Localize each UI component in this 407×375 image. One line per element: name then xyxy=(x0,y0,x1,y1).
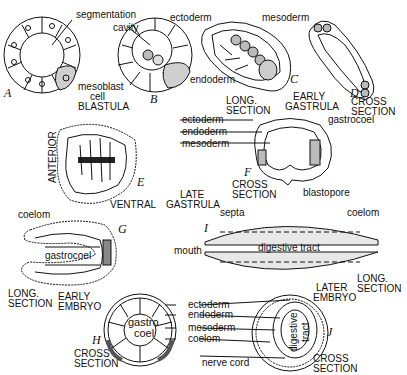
panel-letter-c: C xyxy=(290,72,298,87)
blastula-a-drawing xyxy=(4,17,80,93)
panel-letter-j: J xyxy=(327,325,332,340)
label-mouth: mouth xyxy=(174,246,202,256)
label-blastula: BLASTULA xyxy=(78,102,129,112)
label-cavity: cavity xyxy=(113,23,139,33)
label-ventral: VENTRAL xyxy=(110,200,156,210)
label-late-2: GASTRULA xyxy=(166,200,220,210)
label-blastopore: blastopore xyxy=(303,188,350,198)
label-mesoderm-e: mesoderm xyxy=(182,139,229,149)
label-early-embryo-2: EMBRYO xyxy=(58,302,101,312)
panel-letter-h: H xyxy=(92,333,101,348)
label-long-i-2: SECTION xyxy=(357,284,401,294)
label-segmentation: segmentation xyxy=(76,10,136,20)
label-endoderm-c: endoderm xyxy=(190,75,235,85)
cross-section-f-drawing xyxy=(255,119,332,186)
label-early-gastrula-2: GASTRULA xyxy=(285,102,339,112)
label-gastrocoel-g: gastrocoel xyxy=(45,251,91,261)
label-gastrocoel-f: gastrocoel xyxy=(328,115,374,125)
label-cross-f-2: SECTION xyxy=(232,190,276,200)
label-digestive-tract-i: digestive tract xyxy=(258,243,320,253)
label-ectoderm-e: ectoderm xyxy=(182,115,224,125)
label-cross-h-2: SECTION xyxy=(74,359,118,369)
panel-letter-b: B xyxy=(150,92,157,107)
label-coelom-j: coelom xyxy=(188,334,220,344)
label-digestive-j: digestive xyxy=(288,313,299,352)
label-cross-j-2: SECTION xyxy=(313,364,357,374)
label-endoderm-e: endoderm xyxy=(182,127,227,137)
panel-letter-g: G xyxy=(118,222,127,237)
label-nerve-cord: nerve cord xyxy=(202,358,249,368)
label-coelom-i: coelom xyxy=(347,208,379,218)
label-coel: coel xyxy=(134,328,154,338)
panel-letter-e: E xyxy=(137,175,144,190)
label-later-embryo-2: EMBRYO xyxy=(313,293,356,303)
label-gastro: gastro xyxy=(128,317,159,327)
label-long-c-2: SECTION xyxy=(226,106,270,116)
label-tract-j: tract xyxy=(300,323,311,342)
label-ectoderm-c: ectoderm xyxy=(170,13,212,23)
label-long-g-2: SECTION xyxy=(8,299,52,309)
label-septa: septa xyxy=(220,208,244,218)
label-anterior: ANTERIOR xyxy=(47,131,58,183)
label-mesoderm-j: mesoderm xyxy=(188,323,235,333)
panel-letter-a: A xyxy=(4,86,11,101)
panel-letter-f: F xyxy=(244,165,251,180)
cross-section-d-drawing xyxy=(309,21,374,100)
label-coelom-g: coelom xyxy=(18,210,50,220)
label-endoderm-j: endoderm xyxy=(188,310,233,320)
label-mesoderm-c: mesoderm xyxy=(262,13,309,23)
panel-letter-i: I xyxy=(204,221,208,236)
late-gastrula-e-drawing xyxy=(57,124,136,203)
